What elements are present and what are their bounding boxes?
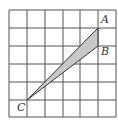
label-point-b: B — [100, 45, 109, 58]
label-point-c: C — [17, 101, 26, 114]
grid-diagram: A B C — [0, 0, 118, 120]
label-point-a: A — [100, 13, 109, 26]
